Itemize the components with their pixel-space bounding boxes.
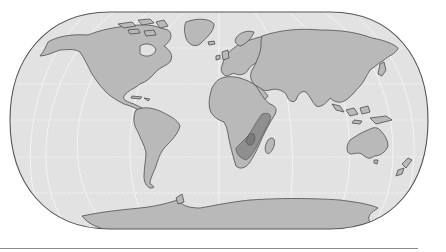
world-map: [0, 0, 446, 252]
bottom-rule: [0, 248, 418, 249]
